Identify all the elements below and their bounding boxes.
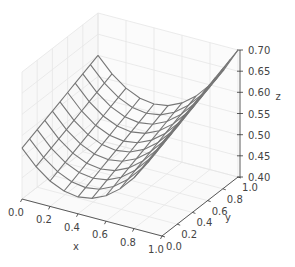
z-tick-label: 0.55 <box>248 109 270 120</box>
x-tick <box>77 214 79 217</box>
surface-plot-3d: 0.00.20.40.60.81.00.00.20.40.60.81.00.40… <box>0 0 295 267</box>
y-tick-label: 0.4 <box>196 217 212 228</box>
z-tick-label: 0.70 <box>248 45 270 56</box>
x-tick-label: 0.8 <box>120 237 136 248</box>
x-axis-label: x <box>73 241 79 252</box>
x-tick-label: 1.0 <box>148 244 164 255</box>
z-axis-label: z <box>275 91 280 102</box>
x-tick-label: 0.0 <box>8 207 24 218</box>
z-tick-label: 0.50 <box>248 130 270 141</box>
y-axis-label: y <box>225 212 231 223</box>
y-tick <box>192 212 195 213</box>
y-tick-label: 0.8 <box>227 194 243 205</box>
x-tick-label: 0.4 <box>64 222 80 233</box>
x-tick <box>161 236 163 239</box>
z-tick-label: 0.65 <box>248 66 270 77</box>
x-tick <box>21 199 23 202</box>
y-tick-label: 0.2 <box>181 229 197 240</box>
x-tick-label: 0.6 <box>92 229 108 240</box>
z-tick-label: 0.40 <box>248 172 270 183</box>
x-tick <box>105 221 107 224</box>
y-tick <box>208 201 211 202</box>
z-tick-label: 0.60 <box>248 87 270 98</box>
y-tick-label: 0.0 <box>166 241 182 252</box>
y-tick <box>177 224 180 225</box>
z-tick-label: 0.45 <box>248 151 270 162</box>
y-tick <box>162 236 165 237</box>
x-tick <box>49 206 51 209</box>
y-tick-label: 1.0 <box>242 182 258 193</box>
y-tick <box>223 189 226 190</box>
x-tick-label: 0.2 <box>36 214 52 225</box>
x-tick <box>133 229 135 232</box>
